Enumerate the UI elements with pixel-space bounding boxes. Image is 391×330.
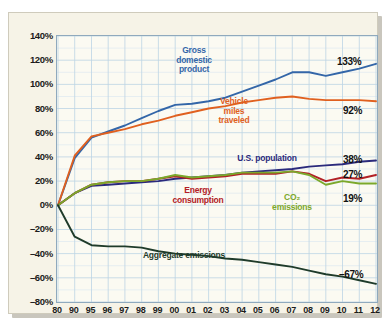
x-axis-tick-label: 98	[132, 305, 150, 315]
chart-svg	[57, 36, 377, 302]
y-axis-tick-label: 120%	[9, 54, 53, 65]
x-axis-tick-label: 80	[48, 305, 66, 315]
y-axis-tick-label: –80%	[9, 296, 53, 307]
x-axis-tick-label: 07	[282, 305, 300, 315]
co2-end-label: 19%	[343, 193, 362, 204]
x-axis-tick-label: 12	[366, 305, 384, 315]
x-axis-tick-label: 11	[349, 305, 367, 315]
x-axis-tick-label: 09	[316, 305, 334, 315]
x-axis-tick-label: 08	[299, 305, 317, 315]
x-axis-tick-label: 04	[232, 305, 250, 315]
x-axis-tick-label: 06	[266, 305, 284, 315]
annotation-aggregate-emissions: Aggregate emissions	[143, 251, 225, 261]
y-axis-tick-label: 20%	[9, 175, 53, 186]
annotation-vehicle-miles-traveled: Vehiclemilestraveled	[218, 97, 249, 126]
x-axis-tick-label: 99	[148, 305, 166, 315]
y-axis-tick-label: 140%	[9, 30, 53, 41]
vmt-end-label: 92%	[343, 105, 362, 116]
chart-panel: 140%120%100%80%60%40%20%0%–20%–40%–60%–8…	[8, 12, 378, 314]
y-axis-tick-label: –60%	[9, 272, 53, 283]
series-line-aggregate-emissions	[58, 205, 376, 284]
x-axis-tick-label: 01	[182, 305, 200, 315]
y-axis-tick-label: 40%	[9, 151, 53, 162]
y-axis-tick-label: 80%	[9, 103, 53, 114]
x-axis-tick-label: 95	[81, 305, 99, 315]
x-axis-tick-label: 96	[98, 305, 116, 315]
x-axis-tick-label: 02	[199, 305, 217, 315]
annotation-energy-consumption: Energyconsumption	[172, 186, 223, 205]
annotation-us-population: U.S. population	[237, 154, 296, 164]
chart-screenshot: 140%120%100%80%60%40%20%0%–20%–40%–60%–8…	[0, 0, 391, 330]
x-axis-tick-label: 97	[115, 305, 133, 315]
energy-end-label: 27%	[343, 169, 362, 180]
aggregate-end-label: –67%	[339, 269, 363, 280]
x-axis-tick-label: 00	[165, 305, 183, 315]
annotation-co2-emissions: CO₂emissions	[272, 193, 312, 212]
y-axis-tick-label: –40%	[9, 248, 53, 259]
plot-area	[56, 35, 378, 303]
x-axis-tick-label: 10	[333, 305, 351, 315]
x-axis-tick-label: 03	[215, 305, 233, 315]
x-axis-tick-label: 90	[65, 305, 83, 315]
y-axis-tick-label: 100%	[9, 78, 53, 89]
gdp-end-label: 133%	[337, 56, 361, 67]
x-axis-tick-label: 05	[249, 305, 267, 315]
y-axis-tick-label: 0%	[9, 199, 53, 210]
y-axis-tick-label: 60%	[9, 127, 53, 138]
annotation-gross-domestic-product: Grossdomesticproduct	[176, 46, 212, 75]
y-axis-tick-label: –20%	[9, 223, 53, 234]
population-end-label: 38%	[343, 154, 362, 165]
